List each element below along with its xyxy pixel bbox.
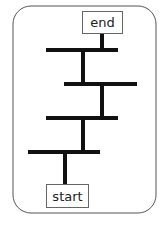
start-label: start [52, 189, 82, 204]
stems [65, 33, 102, 184]
frame [13, 6, 156, 213]
end-label: end [90, 15, 115, 30]
end-node: end [83, 12, 123, 34]
start-node: start [47, 185, 89, 208]
ladder-diagram: end start [0, 0, 162, 226]
